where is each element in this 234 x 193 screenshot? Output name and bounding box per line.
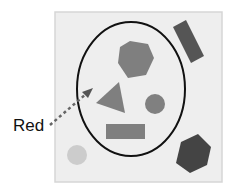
- set-diagram: [0, 0, 234, 193]
- light-circle-shape: [67, 145, 87, 165]
- rectangle-shape: [106, 124, 145, 139]
- red-label: Red: [13, 116, 44, 136]
- circle-shape: [145, 94, 165, 114]
